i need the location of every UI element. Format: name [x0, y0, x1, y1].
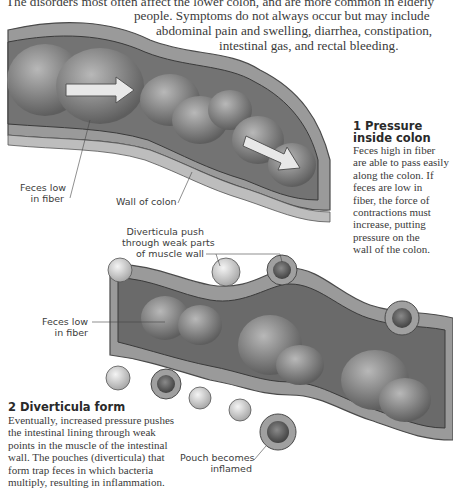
intro-line-3: abdominal pain and swelling, diarrhea, c…	[156, 23, 432, 38]
panel2-body-line: wall. The pouches (diverticula) that	[8, 451, 174, 463]
panel1-body: Feces high in fiber are able to pass eas…	[353, 144, 449, 256]
label-line: Feces low	[42, 316, 88, 327]
panel2-body: Eventually, increased pressure pushes th…	[8, 414, 174, 488]
label-line: inflamed	[180, 463, 252, 474]
label-line: Pouch becomes	[180, 452, 252, 463]
label-line: through weak parts	[122, 237, 204, 248]
panel1-body-line: increase, putting	[353, 218, 449, 230]
label-diverticula-push: Diverticula push through weak parts of m…	[122, 226, 204, 259]
label-pouch-inflamed: Pouch becomes inflamed	[180, 452, 252, 474]
panel2-body-line: Eventually, increased pressure pushes	[8, 414, 174, 426]
panel1-body-line: fiber, the force of	[353, 194, 449, 206]
panel2-body-line: the intestinal lining through weak	[8, 426, 174, 438]
label-line: Feces low	[20, 182, 64, 193]
panel2-body-line: points in the muscle of the intestinal	[8, 439, 174, 451]
intro-line-2: people. Symptoms do not always occur but…	[134, 8, 430, 23]
panel2-body-line: multiply, resulting in inflammation.	[8, 476, 174, 488]
label-feces-low-fiber-1: Feces low in fiber	[20, 182, 64, 204]
panel2-body-line: form trap feces in which bacteria	[8, 464, 174, 476]
label-line: in fiber	[20, 193, 64, 204]
panel1-body-line: Feces high in fiber	[353, 144, 449, 156]
panel1-body-line: are able to pass easily	[353, 156, 449, 168]
panel1-heading-line2: inside colon	[353, 132, 431, 144]
label-line: of muscle wall	[122, 248, 204, 259]
panel1-heading: 1 Pressure inside colon	[353, 120, 431, 144]
label-wall-of-colon: Wall of colon	[116, 196, 177, 207]
panel1-body-line: feces are low in	[353, 181, 449, 193]
panel1-body-line: along the colon. If	[353, 169, 449, 181]
label-line: Diverticula push	[122, 226, 204, 237]
panel1-body-line: pressure on the	[353, 231, 449, 243]
panel1-body-line: wall of the colon.	[353, 243, 449, 255]
label-feces-low-fiber-2: Feces low in fiber	[42, 316, 88, 338]
panel1-body-line: contractions must	[353, 206, 449, 218]
panel2-heading: 2 Diverticula form	[8, 401, 125, 413]
label-line: in fiber	[42, 327, 88, 338]
intro-line-4: intestinal gas, and rectal bleeding.	[219, 38, 398, 53]
